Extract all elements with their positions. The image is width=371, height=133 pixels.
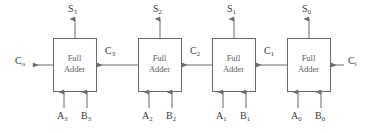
carry-label-c3: C3 <box>105 45 115 56</box>
carry-label-co: Co <box>15 55 25 66</box>
operand-label-a2: A2 <box>142 110 153 121</box>
operand-label-a1: A1 <box>216 110 227 121</box>
sum-label-s3: S3 <box>68 3 77 14</box>
ripple-carry-adder-diagram: Full Adder Full Adder Full Adder Full Ad… <box>0 0 371 133</box>
sum-label-s0: S0 <box>302 3 311 14</box>
adder-box-bit0 <box>288 39 331 92</box>
adder-box-bit1 <box>213 39 256 92</box>
carry-label-c2: C2 <box>190 45 200 56</box>
sum-label-s2: S2 <box>153 3 162 14</box>
adder-box-bit3 <box>54 39 97 92</box>
sum-output-wires <box>75 19 309 39</box>
carry-label-ci: Ci <box>348 55 357 66</box>
operand-label-a0: A0 <box>291 110 302 121</box>
operand-label-b2: B2 <box>166 110 176 121</box>
carry-label-c1: C1 <box>264 45 274 56</box>
operand-label-b3: B3 <box>81 110 91 121</box>
operand-label-a3: A3 <box>57 110 68 121</box>
sum-label-s1: S1 <box>227 3 236 14</box>
operand-label-b1: B1 <box>240 110 250 121</box>
adder-box-bit2 <box>139 39 182 92</box>
operand-input-wires <box>64 92 321 108</box>
operand-label-b0: B0 <box>315 110 325 121</box>
